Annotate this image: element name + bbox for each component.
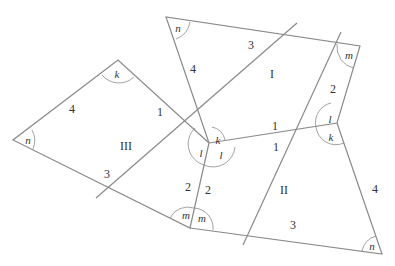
angle-label: l [199, 147, 202, 159]
region-label-II: II [280, 183, 288, 197]
angle-label: k [216, 134, 222, 146]
region-label-I: I [270, 67, 274, 81]
angle-label: m [182, 209, 190, 221]
side-label: 4 [190, 62, 196, 76]
angle-label: m [345, 49, 353, 61]
angle-label: l [328, 113, 331, 125]
angle-label: k [115, 68, 121, 80]
side-label: 4 [372, 182, 378, 196]
quad-left-edges [13, 60, 209, 228]
side-label: 2 [330, 82, 336, 96]
angle-label: n [369, 240, 375, 252]
angle-label: m [198, 212, 206, 224]
angle-label: l [219, 149, 222, 161]
angle-label: n [175, 22, 181, 34]
side-label: 2 [185, 180, 191, 194]
angle-arc-left-n [32, 130, 35, 149]
cut-line-right [243, 32, 341, 245]
side-label: 3 [290, 218, 296, 232]
side-label: 1 [273, 140, 279, 154]
angle-label: n [25, 134, 31, 146]
side-label: 1 [272, 119, 278, 133]
side-label: 1 [157, 105, 163, 119]
tessellation-diagram: I II III 4 3 1 1 2 4 1 3 2 2 4 3 n m l k… [0, 0, 395, 266]
cut-line-diagonal [96, 23, 297, 198]
side-label: 3 [248, 38, 254, 52]
side-label: 4 [69, 102, 75, 116]
side-label: 2 [205, 183, 211, 197]
side-label: 3 [104, 167, 110, 181]
region-label-III: III [120, 139, 132, 153]
angle-label: k [329, 131, 335, 143]
